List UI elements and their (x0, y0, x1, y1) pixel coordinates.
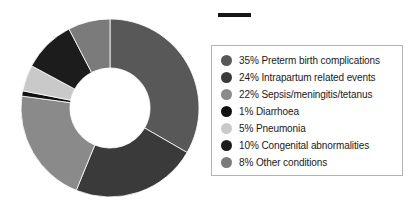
donut-slice (110, 19, 199, 153)
legend-swatch-icon (221, 123, 232, 134)
legend-item-label: 24% Intrapartum related events (239, 72, 376, 83)
legend-item: 1% Diarrhoea (212, 103, 402, 120)
legend-item: 22% Sepsis/meningitis/tetanus (212, 86, 402, 103)
legend-item: 24% Intrapartum related events (212, 69, 402, 86)
chart-screenshot: 35% Preterm birth complications24% Intra… (0, 0, 417, 214)
dash-mark (218, 13, 251, 17)
legend-item: 35% Preterm birth complications (212, 52, 402, 69)
legend-swatch-icon (221, 72, 232, 83)
legend-swatch-icon (221, 140, 232, 151)
legend-item-label: 8% Other conditions (239, 157, 327, 168)
legend-item-label: 10% Congenital abnormalities (239, 140, 369, 151)
legend-item: 5% Pneumonia (212, 120, 402, 137)
legend-item-label: 5% Pneumonia (239, 123, 306, 134)
legend-item-label: 35% Preterm birth complications (239, 55, 380, 66)
legend-swatch-icon (221, 89, 232, 100)
legend-item-label: 22% Sepsis/meningitis/tetanus (239, 89, 372, 100)
donut-chart-svg (21, 19, 199, 197)
donut-chart (21, 19, 199, 197)
legend-swatch-icon (221, 106, 232, 117)
legend-item-label: 1% Diarrhoea (239, 106, 299, 117)
legend: 35% Preterm birth complications24% Intra… (211, 45, 403, 176)
legend-swatch-icon (221, 55, 232, 66)
legend-item: 10% Congenital abnormalities (212, 137, 402, 154)
legend-item: 8% Other conditions (212, 154, 402, 171)
donut-slice-group (21, 19, 199, 197)
legend-swatch-icon (221, 157, 232, 168)
